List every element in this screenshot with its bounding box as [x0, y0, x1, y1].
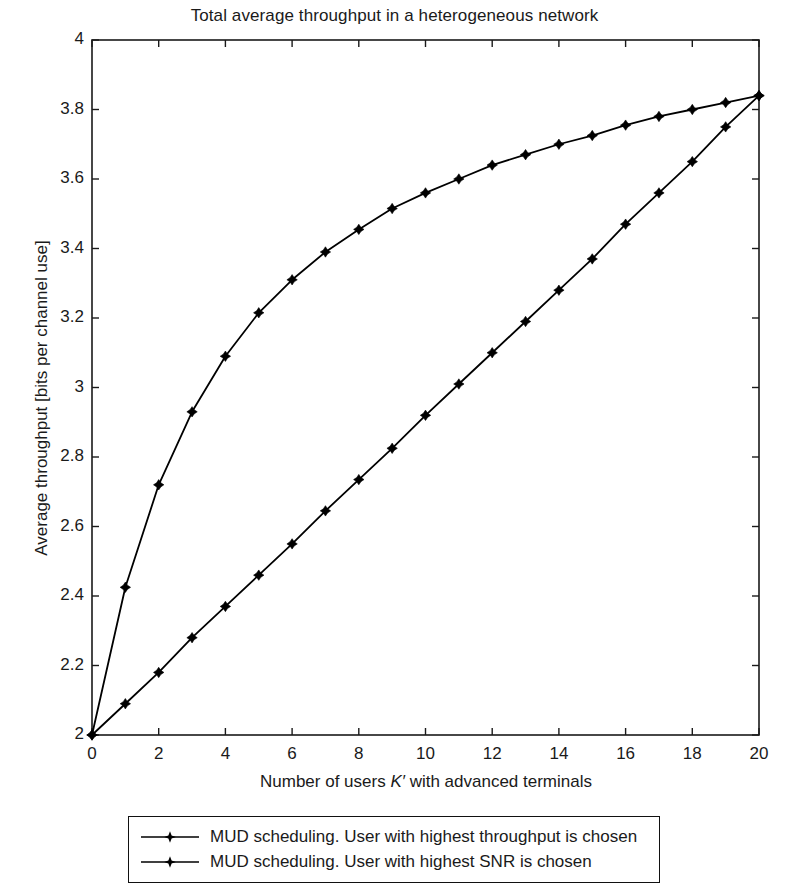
x-axis-label: Number of users K′ with advanced termina… — [92, 772, 760, 792]
x-axis-label-after: with advanced terminals — [405, 772, 592, 791]
legend: MUD scheduling. User with highest throug… — [128, 816, 660, 883]
x-tick-label: 4 — [202, 744, 248, 764]
legend-line-sample-icon — [139, 852, 201, 872]
x-tick-label: 14 — [536, 744, 582, 764]
y-tick-label: 2 — [24, 724, 84, 744]
axes-frame — [92, 40, 759, 735]
x-axis-label-symbol: K′ — [390, 772, 405, 791]
data-series-layer — [87, 90, 764, 740]
x-tick-label: 6 — [269, 744, 315, 764]
x-axis-label-before: Number of users — [260, 772, 390, 791]
legend-entry-throughput: MUD scheduling. User with highest throug… — [139, 824, 649, 849]
x-tick-label: 0 — [69, 744, 115, 764]
y-axis-label: Average throughput [bits per channel use… — [32, 178, 52, 618]
x-tick-label: 2 — [136, 744, 182, 764]
x-tick-label: 8 — [336, 744, 382, 764]
legend-entry-snr: MUD scheduling. User with highest SNR is… — [139, 849, 649, 874]
x-tick-label: 12 — [469, 744, 515, 764]
y-tick-label: 2.2 — [24, 655, 84, 675]
figure-container: Total average throughput in a heterogene… — [0, 0, 789, 887]
axis-ticks — [92, 40, 759, 735]
y-tick-label: 3.8 — [24, 99, 84, 119]
x-tick-label: 20 — [736, 744, 782, 764]
legend-line-sample-icon — [139, 827, 201, 847]
legend-label-snr: MUD scheduling. User with highest SNR is… — [210, 852, 592, 872]
x-tick-label: 10 — [403, 744, 449, 764]
x-tick-label: 16 — [603, 744, 649, 764]
legend-label-throughput: MUD scheduling. User with highest throug… — [210, 827, 637, 847]
y-tick-label: 4 — [24, 29, 84, 49]
x-tick-label: 18 — [669, 744, 715, 764]
